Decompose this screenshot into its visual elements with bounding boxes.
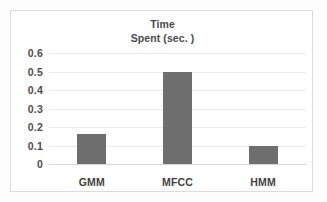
y-axis-tick-label: 0.3 <box>28 103 43 115</box>
y-axis-tick-label: 0 <box>37 158 43 170</box>
plot-area: 00.10.20.30.40.50.6 GMMMFCCHMM <box>49 53 306 164</box>
y-axis-tick-label: 0.1 <box>28 140 43 152</box>
x-axis-category-label: GMM <box>79 176 105 188</box>
y-axis-tick-label: 0.6 <box>28 47 43 59</box>
gridline <box>49 53 306 54</box>
bar <box>249 146 278 164</box>
y-axis-tick-label: 0.5 <box>28 66 43 78</box>
gridline <box>49 164 306 165</box>
y-axis-tick-label: 0.4 <box>28 84 43 96</box>
chart-title-line-2: Spent (sec. ) <box>11 32 314 46</box>
chart-screenshot: Time Spent (sec. ) 00.10.20.30.40.50.6 G… <box>0 0 327 202</box>
x-axis-category-label: MFCC <box>162 176 193 188</box>
bar <box>163 72 192 165</box>
chart-title: Time Spent (sec. ) <box>11 18 314 45</box>
x-axis-category-label: HMM <box>250 176 276 188</box>
bar <box>77 134 106 164</box>
y-axis-tick-label: 0.2 <box>28 121 43 133</box>
chart-title-line-1: Time <box>11 18 314 32</box>
chart-frame: Time Spent (sec. ) 00.10.20.30.40.50.6 G… <box>10 10 313 192</box>
